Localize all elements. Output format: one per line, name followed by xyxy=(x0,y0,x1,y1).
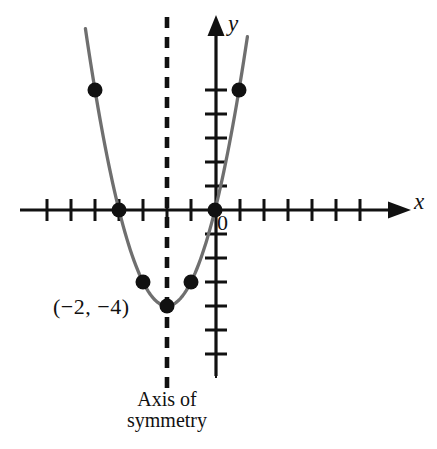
axis-of-symmetry-label: Axis of symmetry xyxy=(92,389,242,431)
data-point xyxy=(112,203,127,218)
x-axis-label: x xyxy=(414,190,424,214)
data-point xyxy=(88,83,103,98)
axis-of-symmetry-label-line2: symmetry xyxy=(92,410,242,431)
y-axis-label: y xyxy=(228,12,238,36)
data-point xyxy=(232,83,247,98)
parabola-figure: y x 0 (−2, −4) Axis of symmetry xyxy=(0,0,437,449)
y-axis xyxy=(208,15,225,378)
origin-label: 0 xyxy=(217,211,228,234)
vertex-coordinate-label: (−2, −4) xyxy=(53,295,129,318)
data-point xyxy=(184,275,199,290)
data-point xyxy=(160,299,175,314)
data-point xyxy=(136,275,151,290)
axis-of-symmetry-label-line1: Axis of xyxy=(137,388,196,410)
